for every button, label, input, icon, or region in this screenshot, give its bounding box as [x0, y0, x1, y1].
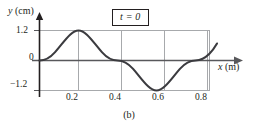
time-annotation-badge: t = 0 — [112, 9, 149, 26]
y-tick-label-1: 1.2 — [16, 26, 28, 36]
x-axis-unit: (m) — [225, 61, 239, 72]
y-axis-arrowhead — [36, 12, 43, 20]
wave-snapshot-figure: y (cm) x (m) 1.2 0 −1.2 0.2 0.4 0.6 0.8 … — [0, 0, 258, 127]
x-tick-label-4: 0.8 — [195, 93, 207, 103]
x-tick-label-3: 0.6 — [152, 93, 164, 103]
x-tick-label-2: 0.4 — [109, 93, 121, 103]
y-axis — [36, 12, 43, 97]
y-tick-label-2: 0 — [29, 53, 34, 63]
x-axis-title: x (m) — [218, 62, 239, 72]
y-axis-title: y (cm) — [8, 6, 34, 16]
y-tick-label-3: −1.2 — [10, 80, 27, 90]
panel-caption: (b) — [0, 110, 258, 120]
y-axis-unit: (cm) — [15, 5, 34, 16]
x-axis — [32, 57, 243, 65]
x-tick-label-1: 0.2 — [66, 93, 78, 103]
